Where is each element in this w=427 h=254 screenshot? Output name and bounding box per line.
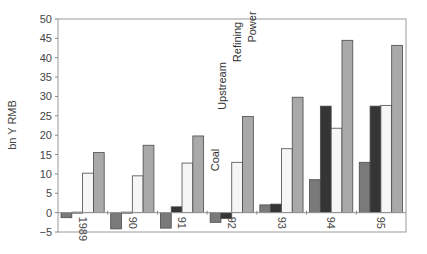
bar-coal-92 (210, 213, 221, 223)
bar-power-92 (243, 117, 254, 213)
bar-power-90 (143, 145, 154, 212)
series-label-coal: Coal (209, 149, 221, 172)
x-tick-label: 95 (375, 217, 387, 229)
bar-refining-90 (132, 176, 143, 213)
x-tick-label: 92 (226, 217, 238, 229)
bar-refining-1989 (83, 173, 94, 213)
bar-coal-91 (160, 213, 171, 228)
bar-power-94 (342, 40, 353, 212)
y-tick-label: 20 (40, 129, 52, 141)
bar-coal-93 (260, 205, 271, 213)
bar-refining-92 (232, 162, 243, 212)
y-tick-label: 10 (40, 168, 52, 180)
y-tick-label: 0 (46, 207, 52, 219)
bar-upstream-93 (271, 204, 282, 213)
x-tick-label: 91 (176, 217, 188, 229)
y-tick-label: 15 (40, 149, 52, 161)
x-tick-label: 94 (325, 217, 337, 229)
bars (61, 40, 402, 229)
y-tick-label: 35 (40, 71, 52, 83)
bar-refining-95 (381, 105, 392, 212)
bar-upstream-91 (171, 207, 182, 213)
bar-upstream-95 (370, 106, 381, 212)
y-tick-label: 40 (40, 52, 52, 64)
bar-power-95 (392, 45, 403, 212)
bar-refining-94 (331, 128, 342, 212)
bar-coal-1989 (61, 213, 72, 218)
bar-power-93 (292, 97, 303, 212)
y-tick-label: 45 (40, 32, 52, 44)
bar-coal-90 (111, 213, 122, 229)
y-tick-label: 25 (40, 110, 52, 122)
bar-refining-93 (281, 149, 292, 213)
bar-chart: −505101520253035404550 1989909192939495 … (0, 0, 427, 254)
bar-upstream-94 (320, 106, 331, 212)
y-axis-title: bn Y RMB (6, 100, 18, 150)
x-tick-label: 1989 (77, 217, 89, 241)
series-label-power: Power (246, 11, 258, 43)
x-tick-label: 93 (276, 217, 288, 229)
bar-power-91 (193, 136, 204, 213)
y-tick-label: 50 (40, 13, 52, 25)
bar-refining-91 (182, 163, 193, 213)
x-tick-label: 90 (127, 217, 139, 229)
y-tick-label: 5 (46, 187, 52, 199)
series-label-upstream: Upstream (216, 62, 228, 110)
y-tick-label: −5 (39, 226, 52, 238)
bar-power-1989 (93, 153, 104, 213)
bar-coal-95 (359, 162, 370, 212)
bar-coal-94 (310, 180, 321, 213)
series-label-refining: Refining (231, 22, 243, 62)
y-tick-label: 30 (40, 90, 52, 102)
